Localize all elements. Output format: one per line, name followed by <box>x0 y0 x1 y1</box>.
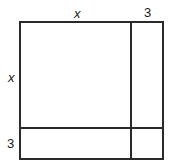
outer-bottom-edge <box>20 158 164 160</box>
label-top-x: x <box>74 7 81 20</box>
inner-vertical-divider <box>130 21 132 160</box>
outer-left-edge <box>19 21 21 160</box>
label-side-3: 3 <box>7 137 14 150</box>
outer-right-edge <box>162 21 164 160</box>
label-top-3: 3 <box>144 6 151 19</box>
label-side-x: x <box>8 71 15 84</box>
inner-horizontal-divider <box>20 127 164 129</box>
outer-top-edge <box>20 21 164 23</box>
